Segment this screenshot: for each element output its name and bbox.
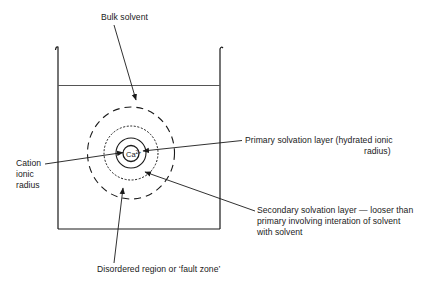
cation-radius-arrow <box>45 153 123 165</box>
primary-solvation-arrow <box>143 141 242 152</box>
secondary-label-line-1: Secondary solvation layer — looser than <box>257 205 413 216</box>
bulk-solvent-label: Bulk solvent <box>101 12 148 23</box>
cation-label-line-2: ionic <box>16 169 34 180</box>
bulk-solvent-arrow <box>114 25 136 100</box>
primary-label-line-1: Primary solvation layer (hydrated ionic <box>245 135 393 146</box>
disordered-region-arrow <box>114 188 123 263</box>
leader-lines <box>45 25 255 263</box>
diagram-canvas: Ca2+ Bulk solvent Cation ionic radius Pr… <box>0 0 440 285</box>
secondary-label-line-3: with solvent <box>257 227 303 238</box>
cation-label-line-1: Cation <box>16 158 41 169</box>
disordered-region-label: Disordered region or ‘fault zone’ <box>97 264 220 275</box>
beaker <box>56 47 224 229</box>
cation-symbol: Ca2+ <box>126 149 141 160</box>
primary-label-line-2: radius) <box>364 146 391 157</box>
beaker-right-wall <box>220 47 223 229</box>
beaker-left-wall <box>56 47 59 229</box>
secondary-solvation-arrow <box>145 172 255 211</box>
secondary-label-line-2: primary involving interation of solvent <box>257 216 400 227</box>
cation-label-line-3: radius <box>16 180 40 191</box>
